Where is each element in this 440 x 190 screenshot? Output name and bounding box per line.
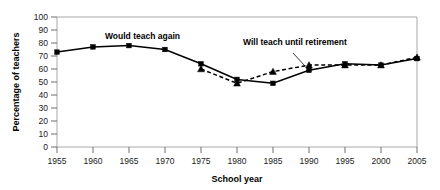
x-tick-label: 1965	[120, 156, 139, 166]
data-point-square	[127, 43, 132, 48]
y-tick-label: 20	[39, 116, 49, 126]
x-tick-label: 1985	[264, 156, 283, 166]
data-point-square	[55, 50, 60, 55]
y-tick-label: 70	[39, 51, 49, 61]
x-tick-label: 2000	[372, 156, 391, 166]
x-tick-label: 1975	[192, 156, 211, 166]
y-tick-label: 80	[39, 38, 49, 48]
x-tick-label: 1990	[300, 156, 319, 166]
chart-container: 100 90 80 70 60 50 40 30 20 10 0	[0, 0, 440, 190]
data-point-triangle	[198, 66, 205, 72]
data-point-square	[163, 47, 168, 52]
data-point-square	[91, 45, 96, 50]
y-axis-title: Percentage of teachers	[11, 32, 21, 131]
series-layer	[55, 43, 421, 86]
x-axis-title: School year	[211, 174, 263, 184]
series-label-will-teach-until-retirement: Will teach until retirement	[243, 37, 347, 47]
y-axis-ticks	[51, 17, 57, 147]
y-tick-label: 100	[34, 12, 48, 22]
y-tick-label: 40	[39, 90, 49, 100]
data-point-square	[307, 68, 312, 73]
x-tick-label: 1960	[84, 156, 103, 166]
y-tick-label: 0	[43, 142, 48, 152]
line-chart: 100 90 80 70 60 50 40 30 20 10 0	[0, 0, 440, 190]
x-axis-tick-labels: 1955 1960 1965 1970 1975 1980 1985 1990 …	[48, 156, 427, 166]
y-axis-tick-labels: 100 90 80 70 60 50 40 30 20 10 0	[34, 12, 48, 152]
y-tick-label: 10	[39, 129, 49, 139]
series-label-would-teach-again: Would teach again	[105, 31, 180, 41]
x-tick-label: 1970	[156, 156, 175, 166]
x-tick-label: 1980	[228, 156, 247, 166]
y-tick-label: 30	[39, 103, 49, 113]
annotation-leader-line	[293, 53, 305, 66]
y-tick-label: 60	[39, 64, 49, 74]
data-point-triangle	[270, 68, 277, 74]
data-point-square	[271, 81, 276, 86]
x-tick-label: 1995	[336, 156, 355, 166]
x-tick-label: 2005	[408, 156, 427, 166]
y-tick-label: 90	[39, 25, 49, 35]
y-tick-label: 50	[39, 77, 49, 87]
x-axis-ticks	[57, 147, 417, 153]
x-tick-label: 1955	[48, 156, 67, 166]
